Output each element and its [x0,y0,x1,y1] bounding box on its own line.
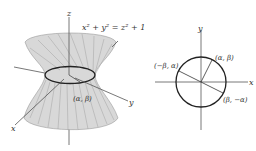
hyperboloid-figure: z y x x² + y² = z² + 1 (α, β) [11,9,145,145]
y-axis-label: y [197,24,203,33]
point-label-alpha-beta: (α, β) [215,54,234,62]
hyperboloid-surface [24,33,118,130]
figure-canvas: z y x x² + y² = z² + 1 (α, β) y x (α, β)… [0,0,256,151]
x-axis-label: x [249,78,254,87]
z-axis-label: z [66,9,72,18]
point-label-alpha-beta: (α, β) [73,95,92,103]
point-label-beta-neg-alpha: (β, −α) [223,96,248,104]
radius-alpha-beta [201,60,212,82]
x-axis-label: x [11,124,16,133]
y-axis-label: y [128,98,134,107]
point-label-neg-beta-alpha: (−β, α) [154,62,179,70]
equation-label: x² + y² = z² + 1 [82,23,145,32]
circle-figure: y x (α, β) (−β, α) (β, −α) [154,24,254,130]
